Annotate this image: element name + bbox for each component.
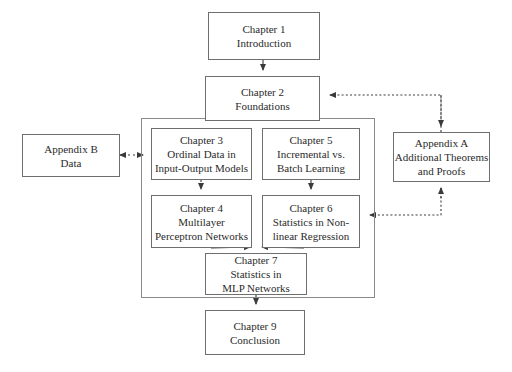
node-chapter9[interactable]: Chapter 9 Conclusion: [205, 310, 305, 355]
flowchart-diagram: Chapter 1 Introduction Chapter 2 Foundat…: [0, 0, 512, 372]
node-chapter9-line-2: Conclusion: [230, 333, 280, 347]
node-chapter4-line-1: Chapter 4: [180, 201, 223, 215]
node-chapter2[interactable]: Chapter 2 Foundations: [205, 76, 320, 121]
node-chapter6-line-1: Chapter 6: [289, 201, 332, 215]
node-chapter7-line-2: Statistics in: [230, 267, 281, 281]
node-chapter5[interactable]: Chapter 5 Incremental vs. Batch Learning: [262, 128, 360, 180]
node-appendix-b[interactable]: Appendix B Data: [22, 134, 120, 177]
node-chapter1[interactable]: Chapter 1 Introduction: [208, 12, 320, 60]
node-chapter4[interactable]: Chapter 4 Multilayer Perceptron Networks: [151, 195, 252, 248]
node-appendix-a-line-2: Additional Theorems: [395, 150, 489, 164]
node-appendix-a[interactable]: Appendix A Additional Theorems and Proof…: [393, 132, 490, 182]
node-chapter1-line-2: Introduction: [237, 36, 291, 50]
node-chapter6-line-3: linear Regression: [273, 229, 350, 243]
node-chapter5-line-1: Chapter 5: [289, 133, 332, 147]
node-chapter3-line-1: Chapter 3: [180, 133, 223, 147]
node-chapter3-line-3: Input-Output Models: [155, 161, 248, 175]
node-appendix-a-line-3: and Proofs: [418, 164, 465, 178]
node-chapter2-line-2: Foundations: [235, 99, 289, 113]
node-chapter4-line-2: Multilayer: [178, 215, 224, 229]
node-chapter6[interactable]: Chapter 6 Statistics in Non- linear Regr…: [262, 195, 360, 248]
node-chapter1-line-1: Chapter 1: [242, 22, 285, 36]
node-chapter4-line-3: Perceptron Networks: [155, 229, 248, 243]
node-appendix-a-line-1: Appendix A: [415, 136, 468, 150]
node-chapter5-line-2: Incremental vs.: [277, 147, 345, 161]
node-chapter5-line-3: Batch Learning: [277, 161, 345, 175]
node-chapter7[interactable]: Chapter 7 Statistics in MLP Networks: [205, 253, 307, 295]
node-chapter3[interactable]: Chapter 3 Ordinal Data in Input-Output M…: [151, 128, 252, 180]
edge-chapter6-to-appendixa: [370, 188, 441, 215]
node-chapter3-line-2: Ordinal Data in: [167, 147, 235, 161]
node-chapter2-line-1: Chapter 2: [241, 85, 284, 99]
node-appendix-b-line-2: Data: [61, 156, 82, 170]
node-chapter6-line-2: Statistics in Non-: [273, 215, 349, 229]
node-appendix-b-line-1: Appendix B: [44, 142, 97, 156]
node-chapter9-line-1: Chapter 9: [233, 319, 276, 333]
node-chapter7-line-3: MLP Networks: [222, 281, 290, 295]
node-chapter7-line-1: Chapter 7: [234, 253, 277, 267]
